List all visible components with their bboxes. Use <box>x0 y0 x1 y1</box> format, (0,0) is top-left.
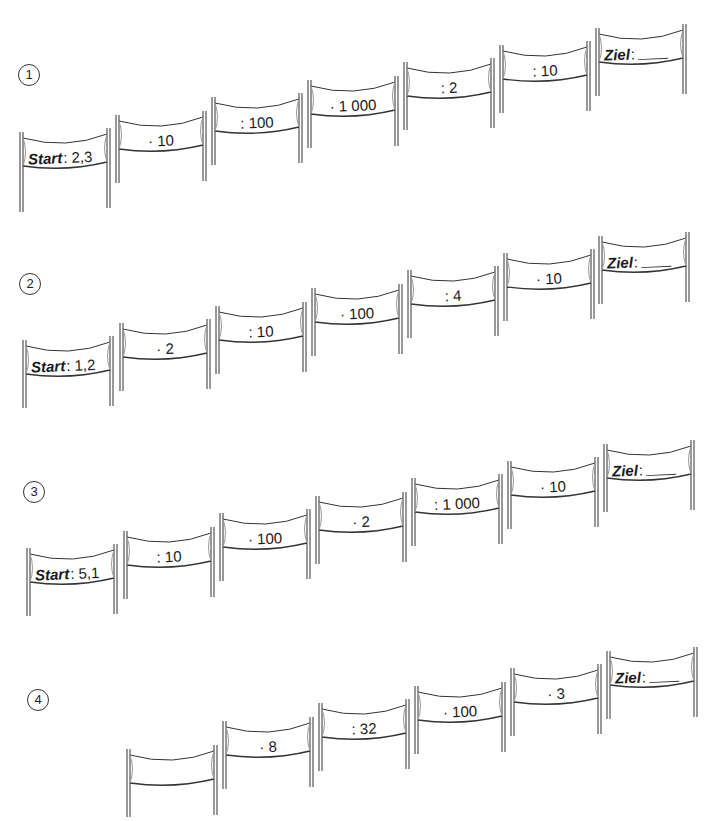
operation-banner: · 10 <box>500 249 598 333</box>
goal-banner: Ziel: <box>600 440 698 524</box>
goal-label: Ziel: <box>612 661 691 690</box>
operation-label: : 10 <box>129 541 208 570</box>
goal-banner: Ziel: <box>603 647 701 731</box>
operation-label: : 10 <box>505 55 584 84</box>
start-label: Start: 2,3 <box>25 142 104 171</box>
operation-label: : 10 <box>221 316 300 345</box>
goal-answer-blank[interactable] <box>649 668 680 682</box>
task-number-1: 1 <box>18 64 40 86</box>
operation-banner: · 1 000 <box>304 76 402 160</box>
operation-banner: · 100 <box>216 509 314 593</box>
operation-banner: · 10 <box>112 111 210 195</box>
operation-label: · 100 <box>317 298 396 327</box>
operation-label: · 8 <box>228 731 307 760</box>
operation-banner: · 3 <box>507 664 605 748</box>
start-banner: Start: 1,2 <box>19 336 117 420</box>
goal-label: Ziel: <box>604 246 683 275</box>
operation-label: · 100 <box>420 696 499 725</box>
goal-label: Ziel: <box>609 454 688 483</box>
operation-banner: · 2 <box>116 319 214 403</box>
operation-banner: : 32 <box>315 699 413 783</box>
operation-banner: : 10 <box>496 41 594 125</box>
operation-banner: · 10 <box>504 457 602 541</box>
goal-answer-blank[interactable] <box>646 461 677 475</box>
goal-answer-blank[interactable] <box>638 45 669 59</box>
goal-label: Ziel: <box>601 38 680 67</box>
operation-label: : 4 <box>413 280 492 309</box>
operation-label: · 100 <box>225 523 304 552</box>
operation-banner: · 100 <box>411 682 509 766</box>
operation-label: : 2 <box>409 72 488 101</box>
operation-banner: : 10 <box>212 302 310 386</box>
operation-banner: · 2 <box>312 492 410 576</box>
operation-label: · 2 <box>125 333 204 362</box>
operation-banner: · 8 <box>219 717 317 801</box>
operation-banner: : 4 <box>404 266 502 350</box>
operation-label: · 2 <box>321 506 400 535</box>
start-value: 2,3 <box>71 147 93 165</box>
task-number-3: 3 <box>23 481 45 503</box>
operation-banner: : 100 <box>208 93 306 177</box>
task-number-2: 2 <box>19 273 41 295</box>
operation-label: : 1 000 <box>417 488 496 517</box>
start-banner: Start: 5,1 <box>23 544 121 628</box>
operation-label: · 3 <box>516 678 595 707</box>
operation-banner: · 100 <box>308 284 406 368</box>
operation-label: · 10 <box>121 125 200 154</box>
start-value: 1,2 <box>74 355 96 373</box>
operation-banner: : 2 <box>400 58 498 142</box>
operation-banner <box>123 745 221 821</box>
start-banner: Start: 2,3 <box>16 128 114 212</box>
task-number-4: 4 <box>27 689 49 711</box>
operation-label: · 10 <box>513 471 592 500</box>
operation-label: : 100 <box>217 107 296 136</box>
start-label: Start: 1,2 <box>28 350 107 379</box>
goal-banner: Ziel: <box>592 24 690 108</box>
operation-banner: : 10 <box>120 527 218 611</box>
goal-banner: Ziel: <box>595 232 693 316</box>
start-value: 5,1 <box>78 563 100 581</box>
operation-label <box>132 759 211 788</box>
operation-banner: : 1 000 <box>408 474 506 558</box>
operation-label: · 10 <box>509 263 588 292</box>
operation-label: : 32 <box>324 713 403 742</box>
start-label: Start: 5,1 <box>32 558 111 587</box>
operation-label: · 1 000 <box>313 90 392 119</box>
goal-answer-blank[interactable] <box>641 253 672 267</box>
